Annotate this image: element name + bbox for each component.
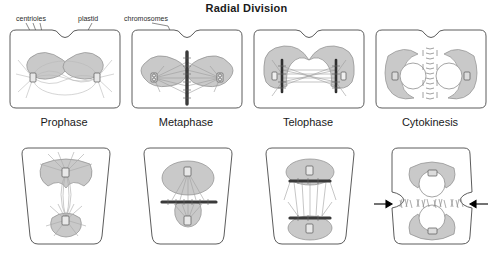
- phase-label-prophase: Prophase: [2, 116, 126, 128]
- cell-cytokinesis-vertical: [372, 142, 490, 250]
- phase-label-telophase: Telophase: [246, 116, 370, 128]
- cell-prophase-horizontal: [8, 26, 122, 112]
- cell-cytokinesis-horizontal: [374, 26, 488, 112]
- cell-metaphase-horizontal: [130, 26, 244, 112]
- cell-prophase-vertical: [14, 142, 118, 250]
- phase-label-cytokinesis: Cytokinesis: [368, 116, 492, 128]
- phase-label-metaphase: Metaphase: [124, 116, 248, 128]
- cell-telophase-vertical: [258, 142, 362, 250]
- cell-metaphase-vertical: [136, 142, 240, 250]
- cell-telophase-horizontal: [252, 26, 366, 112]
